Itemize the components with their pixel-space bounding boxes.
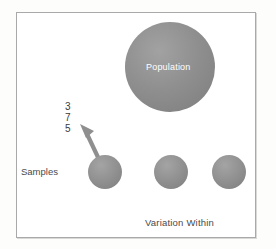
sample-value-3: 5 bbox=[65, 123, 71, 134]
sample-value-1: 3 bbox=[65, 101, 71, 112]
figure-canvas: Population Samples 3 7 5 Variation Withi… bbox=[0, 0, 276, 249]
figure-artwork bbox=[0, 0, 276, 249]
sample-values-stack: 3 7 5 bbox=[65, 101, 71, 134]
sample-value-2: 7 bbox=[65, 112, 71, 123]
sample-circle-1 bbox=[88, 155, 122, 189]
sample-circle-2 bbox=[154, 155, 188, 189]
figure-caption: Variation Within bbox=[145, 217, 214, 228]
samples-label: Samples bbox=[21, 166, 58, 177]
sample-circle-3 bbox=[212, 155, 246, 189]
population-label: Population bbox=[146, 62, 191, 72]
